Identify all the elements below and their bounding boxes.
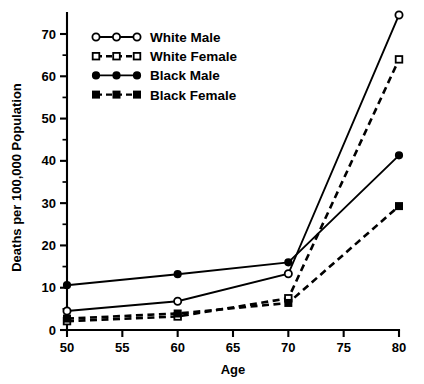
y-axis-title: Deaths per 100,000 Population	[9, 83, 24, 272]
data-point-marker	[92, 33, 99, 40]
data-point-marker	[396, 56, 403, 63]
data-point-marker	[174, 298, 181, 305]
y-tick-label: 10	[42, 280, 56, 295]
scan-artifact	[0, 376, 424, 384]
line-chart: 01020304050607050556065707580 White Male…	[0, 0, 424, 384]
data-point-marker	[285, 270, 292, 277]
data-point-marker	[93, 53, 100, 60]
data-point-marker	[396, 203, 402, 209]
legend-entry-white-female: White Female	[93, 49, 238, 64]
data-point-marker	[64, 282, 71, 289]
legend-label: Black Male	[150, 68, 220, 83]
axis-titles: AgeDeaths per 100,000 Population	[9, 83, 245, 377]
x-tick-label: 75	[336, 340, 350, 355]
x-tick-label: 70	[281, 340, 295, 355]
axes: 01020304050607050556065707580	[42, 13, 407, 355]
data-point-marker	[396, 152, 403, 159]
data-point-marker	[113, 72, 120, 79]
legend-label: White Male	[150, 30, 221, 45]
y-tick-label: 60	[42, 69, 56, 84]
x-tick-label: 65	[226, 340, 240, 355]
legend-label: Black Female	[150, 88, 237, 103]
data-point-marker	[134, 72, 141, 79]
x-tick-label: 55	[115, 340, 129, 355]
y-tick-label: 40	[42, 153, 56, 168]
series-line	[67, 155, 399, 285]
series-black-female	[64, 203, 402, 322]
data-point-marker	[133, 33, 140, 40]
data-point-marker	[63, 307, 70, 314]
y-tick-label: 70	[42, 27, 56, 42]
y-tick-label: 20	[42, 238, 56, 253]
data-point-marker	[134, 91, 140, 97]
data-point-marker	[93, 72, 100, 79]
data-point-marker	[134, 53, 141, 60]
chart-legend: White MaleWhite FemaleBlack MaleBlack Fe…	[92, 30, 237, 103]
data-point-marker	[113, 91, 119, 97]
legend-label: White Female	[150, 49, 238, 64]
data-point-marker	[174, 310, 180, 316]
data-point-marker	[64, 315, 70, 321]
x-tick-label: 60	[170, 340, 184, 355]
chart-figure: 01020304050607050556065707580 White Male…	[0, 0, 424, 384]
legend-entry-black-female: Black Female	[93, 88, 237, 103]
y-tick-label: 50	[42, 111, 56, 126]
series-black-male	[64, 152, 403, 288]
legend-entry-black-male: Black Male	[93, 68, 221, 83]
data-point-marker	[113, 53, 120, 60]
data-point-marker	[174, 271, 181, 278]
x-tick-label: 50	[60, 340, 74, 355]
x-axis-title: Age	[221, 362, 246, 377]
data-point-marker	[395, 11, 402, 18]
data-point-marker	[285, 300, 291, 306]
data-point-marker	[285, 259, 292, 266]
y-tick-label: 0	[49, 323, 56, 338]
data-point-marker	[113, 33, 120, 40]
x-tick-label: 80	[392, 340, 406, 355]
series-line	[67, 206, 399, 318]
legend-entry-white-male: White Male	[92, 30, 221, 45]
data-point-marker	[93, 91, 99, 97]
y-tick-label: 30	[42, 196, 56, 211]
